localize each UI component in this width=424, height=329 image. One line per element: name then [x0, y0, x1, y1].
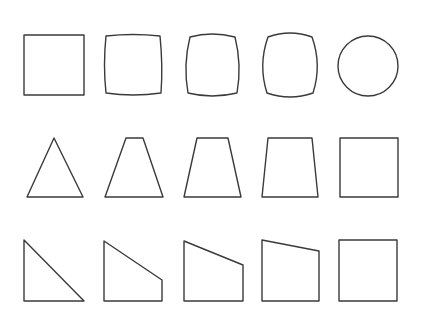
row-right-triangle-to-square [24, 240, 397, 301]
medium-trapezoid-shape [184, 138, 241, 197]
narrow-trapezoid-shape [105, 138, 163, 197]
square-shape [24, 35, 84, 95]
wide-trapezoid-shape [262, 138, 318, 197]
medium-quadrilateral-shape [184, 241, 243, 301]
square-shape [340, 138, 398, 197]
slightly-bulged-square-shape [105, 35, 162, 96]
bulged-square-shape [186, 34, 239, 96]
right-triangle-shape [24, 240, 84, 301]
row-square-to-circle [24, 33, 398, 97]
rounded-square-shape [263, 33, 318, 97]
steep-quadrilateral-shape [104, 241, 162, 301]
square-shape [339, 240, 397, 301]
shallow-quadrilateral-shape [262, 240, 319, 301]
row-triangle-to-square [27, 138, 398, 197]
circle-shape [338, 36, 398, 96]
figure-svg [0, 0, 424, 329]
shape-morph-figure [0, 0, 424, 329]
triangle-shape [27, 138, 83, 197]
